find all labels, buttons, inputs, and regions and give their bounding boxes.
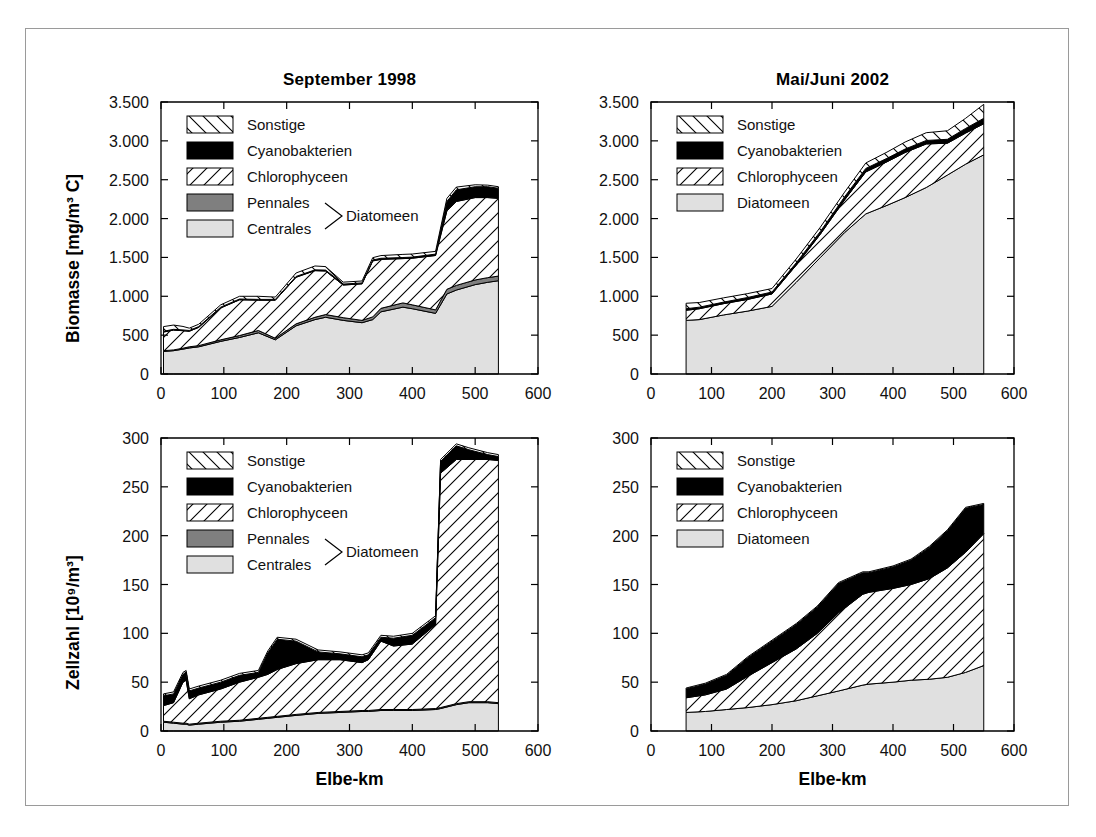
xtick-label: 500: [940, 742, 967, 759]
legend-swatch-centrales: [187, 220, 233, 237]
plot-area-zellzahl_1998: 0501001502002503000100200300400500600Son…: [161, 438, 538, 731]
legend: SonstigeCyanobakterienChlorophyceenDiato…: [677, 452, 842, 547]
x-axis-title-zellzahl_1998: Elbe-km: [161, 769, 538, 790]
y-axis-title-biomasse_1998: Biomasse [mg/m³ C]: [63, 174, 84, 343]
ytick-label: 3.000: [599, 133, 639, 150]
xtick-label: 0: [647, 385, 656, 402]
legend: SonstigeCyanobakterienChlorophyceenDiato…: [677, 116, 842, 211]
ytick-label: 200: [612, 528, 639, 545]
chart-panel-biomasse_2002: 05001.0001.5002.0002.5003.0003.500010020…: [651, 102, 1014, 374]
x-axis-title-zellzahl_2002: Elbe-km: [651, 769, 1014, 790]
legend-group-brace: [325, 203, 342, 229]
xtick-label: 100: [698, 385, 725, 402]
legend-swatch-sonstige: [187, 116, 233, 133]
ytick-label: 2.000: [109, 211, 149, 228]
xtick-label: 400: [880, 385, 907, 402]
legend-swatch-cyanobakterien: [677, 478, 723, 495]
legend-swatch-diatomeen: [677, 194, 723, 211]
legend-swatch-chlorophyceen: [677, 168, 723, 185]
legend-swatch-cyanobakterien: [187, 142, 233, 159]
ytick-label: 3.500: [599, 94, 639, 111]
xtick-label: 400: [399, 742, 426, 759]
y-axis-title-zellzahl_1998: Zellzahl [10⁹/m³]: [63, 555, 84, 690]
xtick-label: 200: [759, 742, 786, 759]
ytick-label: 50: [131, 674, 149, 691]
xtick-label: 300: [819, 385, 846, 402]
xtick-label: 100: [210, 385, 237, 402]
legend-label-sonstige: Sonstige: [247, 452, 305, 469]
xtick-label: 600: [525, 385, 552, 402]
xtick-label: 500: [940, 385, 967, 402]
legend-swatch-sonstige: [677, 116, 723, 133]
xtick-label: 300: [336, 385, 363, 402]
ytick-label: 1.000: [599, 288, 639, 305]
ytick-label: 3.500: [109, 94, 149, 111]
ytick-label: 100: [122, 625, 149, 642]
legend-label-sonstige: Sonstige: [737, 452, 795, 469]
xtick-label: 300: [819, 742, 846, 759]
legend-label-sonstige: Sonstige: [737, 116, 795, 133]
legend-label-chlorophyceen: Chlorophyceen: [737, 168, 838, 185]
legend-label-sonstige: Sonstige: [247, 116, 305, 133]
ytick-label: 1.000: [109, 288, 149, 305]
ytick-label: 300: [122, 430, 149, 447]
legend-swatch-pennales: [187, 530, 233, 547]
legend-label-chlorophyceen: Chlorophyceen: [247, 504, 348, 521]
plot-area-biomasse_2002: 05001.0001.5002.0002.5003.0003.500010020…: [651, 102, 1014, 374]
ytick-label: 500: [612, 327, 639, 344]
legend-swatch-centrales: [187, 556, 233, 573]
ytick-label: 300: [612, 430, 639, 447]
legend-group-label: Diatomeen: [346, 543, 419, 560]
xtick-label: 600: [1001, 385, 1028, 402]
ytick-label: 3.000: [109, 133, 149, 150]
legend: SonstigeCyanobakterienChlorophyceenPenna…: [187, 116, 419, 237]
legend-label-chlorophyceen: Chlorophyceen: [247, 168, 348, 185]
xtick-label: 0: [157, 385, 166, 402]
legend-label-cyanobakterien: Cyanobakterien: [247, 478, 352, 495]
legend-swatch-sonstige: [187, 452, 233, 469]
ytick-label: 50: [621, 674, 639, 691]
chart-panel-zellzahl_1998: 0501001502002503000100200300400500600Son…: [161, 438, 538, 731]
legend-group-label: Diatomeen: [346, 207, 419, 224]
plot-area-biomasse_1998: 05001.0001.5002.0002.5003.0003.500010020…: [161, 102, 538, 374]
ytick-label: 2.500: [599, 172, 639, 189]
legend-swatch-sonstige: [677, 452, 723, 469]
ytick-label: 100: [612, 625, 639, 642]
ytick-label: 500: [122, 327, 149, 344]
legend-label-pennales: Pennales: [247, 530, 310, 547]
legend: SonstigeCyanobakterienChlorophyceenPenna…: [187, 452, 419, 573]
legend-swatch-diatomeen: [677, 530, 723, 547]
legend-group-brace: [325, 539, 342, 565]
legend-label-centrales: Centrales: [247, 556, 311, 573]
legend-swatch-cyanobakterien: [187, 478, 233, 495]
ytick-label: 2.500: [109, 172, 149, 189]
xtick-label: 400: [880, 742, 907, 759]
xtick-label: 200: [759, 385, 786, 402]
legend-label-cyanobakterien: Cyanobakterien: [737, 478, 842, 495]
chart-panel-biomasse_1998: 05001.0001.5002.0002.5003.0003.500010020…: [161, 102, 538, 374]
series-group: [686, 503, 984, 731]
area-series-diatomeen: [686, 155, 984, 374]
legend-label-cyanobakterien: Cyanobakterien: [737, 142, 842, 159]
ytick-label: 150: [612, 577, 639, 594]
panel-title-biomasse_1998: September 1998: [161, 70, 538, 90]
ytick-label: 200: [122, 528, 149, 545]
legend-label-chlorophyceen: Chlorophyceen: [737, 504, 838, 521]
ytick-label: 0: [630, 366, 639, 383]
xtick-label: 300: [336, 742, 363, 759]
figure-frame: 05001.0001.5002.0002.5003.0003.500010020…: [25, 28, 1069, 806]
xtick-label: 600: [525, 742, 552, 759]
xtick-label: 600: [1001, 742, 1028, 759]
ytick-label: 1.500: [109, 249, 149, 266]
xtick-label: 500: [462, 385, 489, 402]
legend-swatch-chlorophyceen: [677, 504, 723, 521]
legend-label-cyanobakterien: Cyanobakterien: [247, 142, 352, 159]
xtick-label: 400: [399, 385, 426, 402]
legend-swatch-pennales: [187, 194, 233, 211]
xtick-label: 100: [698, 742, 725, 759]
ytick-label: 0: [140, 723, 149, 740]
ytick-label: 250: [612, 479, 639, 496]
legend-swatch-cyanobakterien: [677, 142, 723, 159]
legend-label-pennales: Pennales: [247, 194, 310, 211]
xtick-label: 0: [647, 742, 656, 759]
